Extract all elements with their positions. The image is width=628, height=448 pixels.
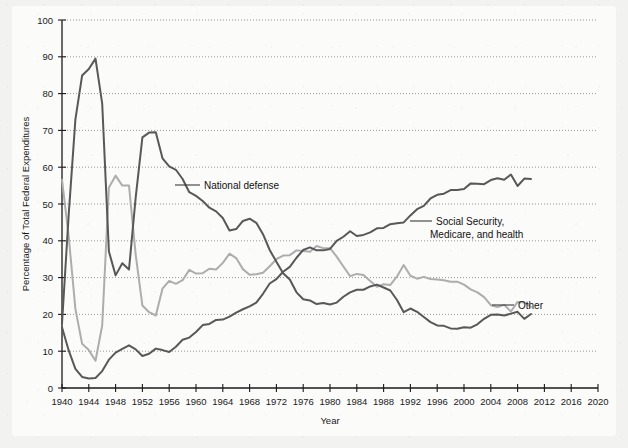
line-chart-plot: 1940194419481952195619601964196819721976… <box>0 0 628 448</box>
social-security-label-line2: Medicare, and health <box>430 229 523 240</box>
x-tick-label: 1964 <box>212 396 233 407</box>
other-label: Other <box>518 300 544 311</box>
y-tick-label: 50 <box>42 199 53 210</box>
x-tick-label: 1940 <box>51 396 72 407</box>
series-line-other <box>62 176 531 361</box>
y-tick-label: 0 <box>48 383 53 394</box>
y-tick-label: 100 <box>37 15 53 26</box>
y-tick-label: 10 <box>42 346 53 357</box>
x-tick-label: 1968 <box>239 396 260 407</box>
y-tick-label: 40 <box>42 235 53 246</box>
y-tick-labels-group: 0102030405060708090100 <box>37 15 53 394</box>
y-tick-label: 20 <box>42 309 53 320</box>
x-tick-labels-group: 1940194419481952195619601964196819721976… <box>51 396 608 407</box>
x-tick-label: 1996 <box>427 396 448 407</box>
chart-figure: 1940194419481952195619601964196819721976… <box>0 0 628 448</box>
x-tick-label: 2012 <box>534 396 555 407</box>
x-tick-label: 1956 <box>159 396 180 407</box>
x-tick-label: 2008 <box>507 396 528 407</box>
x-axis-title: Year <box>320 415 339 426</box>
x-tick-label: 1944 <box>78 396 99 407</box>
series-line-national-defense <box>62 59 531 329</box>
x-tick-label: 1948 <box>105 396 126 407</box>
x-tick-label: 1984 <box>346 396 367 407</box>
x-tick-label: 1972 <box>266 396 287 407</box>
x-tick-label: 1980 <box>319 396 340 407</box>
series-line-social-security <box>62 175 531 379</box>
x-tick-label: 1992 <box>400 396 421 407</box>
social-security-label-line1: Social Security, <box>436 216 504 227</box>
x-tick-label: 2016 <box>561 396 582 407</box>
y-tick-label: 80 <box>42 88 53 99</box>
x-tick-label: 1952 <box>132 396 153 407</box>
x-tick-label: 2004 <box>480 396 501 407</box>
x-tick-label: 1988 <box>373 396 394 407</box>
y-tick-label: 90 <box>42 51 53 62</box>
x-tick-label: 2020 <box>587 396 608 407</box>
x-tick-label: 1976 <box>293 396 314 407</box>
y-tick-label: 70 <box>42 125 53 136</box>
y-axis-title: Percentage of Total Federal Expenditures <box>20 116 31 291</box>
y-tick-label: 60 <box>42 162 53 173</box>
national-defense-label: National defense <box>204 180 279 191</box>
y-tick-label: 30 <box>42 272 53 283</box>
x-tick-label: 1960 <box>185 396 206 407</box>
x-tick-label: 2000 <box>453 396 474 407</box>
